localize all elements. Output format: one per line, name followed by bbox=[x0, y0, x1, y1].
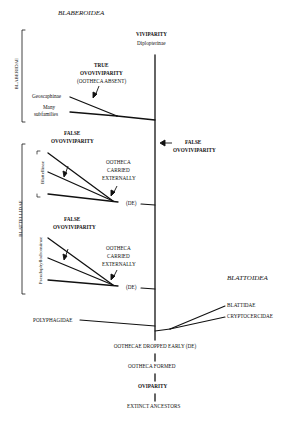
subfamily-many-1: Many bbox=[43, 104, 55, 111]
family-cryptocercidae: CRYPTOCERCIDAE bbox=[227, 313, 273, 320]
superfamily-blaberoidea: BLABEROIDEA bbox=[58, 9, 104, 18]
trait-ext1-3: EXTERNALLY bbox=[102, 175, 136, 182]
trait-true-ovo-2: OVOVIVIPARITY bbox=[80, 70, 123, 77]
trait-false-ovo-main-2: OVOVIVIPARITY bbox=[173, 147, 216, 154]
subfamily-diplopterinae: Diplopterinae bbox=[137, 40, 166, 47]
trait-false-ovo2-2: OVOVIVIPARITY bbox=[53, 224, 96, 231]
trait-ext2-1: OOTHECA bbox=[106, 245, 131, 252]
trait-false-ovo1-2: OVOVIVIPARITY bbox=[51, 138, 94, 145]
subfamily-geoscaphinae: Geoscaphinae bbox=[32, 93, 61, 100]
trait-false-ovo1-1: FALSE bbox=[64, 130, 80, 137]
trait-de-2: (DE) bbox=[126, 284, 136, 291]
trait-false-ovo-main-1: FALSE bbox=[185, 139, 201, 146]
trait-ext1-2: CARRIED bbox=[107, 167, 130, 174]
trait-viviparity: VIVIPARITY bbox=[136, 31, 167, 38]
base-oviparity: OVIPARITY bbox=[138, 383, 167, 390]
trait-true-ovo-3: (OOTHECA ABSENT) bbox=[77, 78, 126, 85]
base-ootheca-formed: OOTHECA FORMED bbox=[128, 363, 175, 370]
family-blattellidae: BLATTELLIDAE bbox=[18, 194, 23, 244]
subfamily-many-2: subfamilies bbox=[34, 111, 58, 118]
family-blaberidae: BLABERIDAE bbox=[14, 60, 19, 90]
superfamily-blattoidea: BLATTOIDEA bbox=[227, 274, 268, 283]
base-oothecae-dropped: OOTHECAE DROPPED EARLY (DE) bbox=[110, 343, 200, 350]
trait-ext1-1: OOTHECA bbox=[106, 159, 131, 166]
trait-ext2-3: EXTERNALLY bbox=[102, 261, 136, 268]
trait-false-ovo2-1: FALSE bbox=[64, 216, 80, 223]
trait-de-1: (DE) bbox=[126, 200, 136, 207]
trait-true-ovo-1: TRUE bbox=[94, 62, 108, 69]
base-extinct-ancestors: EXTINCT ANCESTORS bbox=[127, 403, 180, 410]
family-blattidae: BLATTIDAE bbox=[227, 302, 256, 309]
trait-ext2-2: CARRIED bbox=[107, 253, 130, 260]
subfamily-blattellinae: Blattellinae bbox=[40, 153, 45, 193]
family-polyphagidae: POLYPHAGIDAE bbox=[33, 317, 73, 324]
subfamily-pseudophyllodromiinae: Pseudophyllodromiinae bbox=[38, 227, 43, 295]
